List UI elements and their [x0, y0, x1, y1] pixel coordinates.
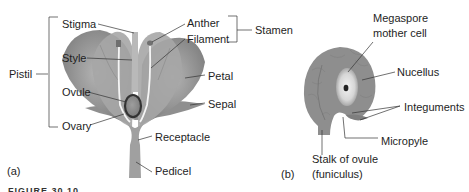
label-pistil: Pistil [9, 68, 32, 80]
label-megaspore-line2: mother cell [373, 27, 427, 39]
label-ovary: Ovary [62, 120, 91, 132]
figure-caption: FIGURE 30.10 [8, 186, 79, 192]
label-stigma: Stigma [62, 18, 96, 30]
label-sepal: Sepal [208, 98, 236, 110]
label-micropyle: Micropyle [381, 135, 428, 147]
label-anther: Anther [187, 17, 219, 29]
label-receptacle: Receptacle [155, 131, 210, 143]
label-pedicel: Pedicel [155, 165, 191, 177]
label-petal: Petal [208, 70, 233, 82]
label-integuments: Integuments [404, 101, 465, 113]
label-stalk-line1: Stalk of ovule [312, 153, 378, 165]
panel-label-b: (b) [281, 168, 294, 180]
label-stalk-line2: (funiculus) [312, 168, 363, 180]
panel-label-a: (a) [7, 165, 20, 177]
label-filament: Filament [187, 33, 229, 45]
label-stamen: Stamen [255, 24, 293, 36]
label-style: Style [62, 52, 86, 64]
ovule-cross-section [304, 47, 376, 135]
label-ovule: Ovule [62, 86, 91, 98]
label-nucellus: Nucellus [397, 66, 439, 78]
label-megaspore-line1: Megaspore [373, 12, 428, 24]
